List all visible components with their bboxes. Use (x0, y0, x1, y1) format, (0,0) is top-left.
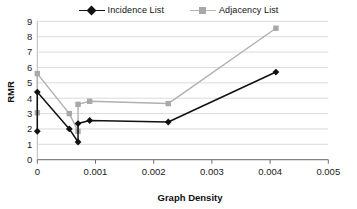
svg-text:0.001: 0.001 (84, 166, 108, 177)
y-axis-tick-labels: 0123456789 (27, 16, 32, 165)
series-adjacency-list (35, 26, 279, 134)
svg-text:8: 8 (27, 31, 32, 42)
svg-text:0: 0 (35, 166, 40, 177)
svg-text:0.005: 0.005 (316, 166, 340, 177)
x-axis-tick-labels: 00.0010.0020.0030.0040.005 (35, 166, 341, 177)
svg-text:0.003: 0.003 (200, 166, 224, 177)
svg-text:9: 9 (27, 16, 32, 27)
svg-text:4: 4 (27, 93, 32, 104)
svg-text:6: 6 (27, 62, 32, 73)
svg-text:0.004: 0.004 (258, 166, 282, 177)
svg-text:3: 3 (27, 108, 32, 119)
svg-text:7: 7 (27, 46, 32, 57)
svg-text:1: 1 (27, 139, 32, 150)
chart-plot: 0123456789 00.0010.0020.0030.0040.005 RM… (0, 0, 357, 209)
grid-lines (37, 21, 328, 159)
svg-text:0: 0 (27, 154, 32, 165)
chart-container: Incidence List Adjacency List 0123456789… (0, 0, 357, 209)
svg-text:2: 2 (27, 123, 32, 134)
series-incidence-list (34, 69, 279, 146)
y-axis-title: RMR (5, 81, 16, 103)
x-axis (37, 160, 328, 164)
x-axis-title: Graph Density (158, 192, 224, 203)
svg-text:0.002: 0.002 (142, 166, 166, 177)
svg-text:5: 5 (27, 77, 32, 88)
